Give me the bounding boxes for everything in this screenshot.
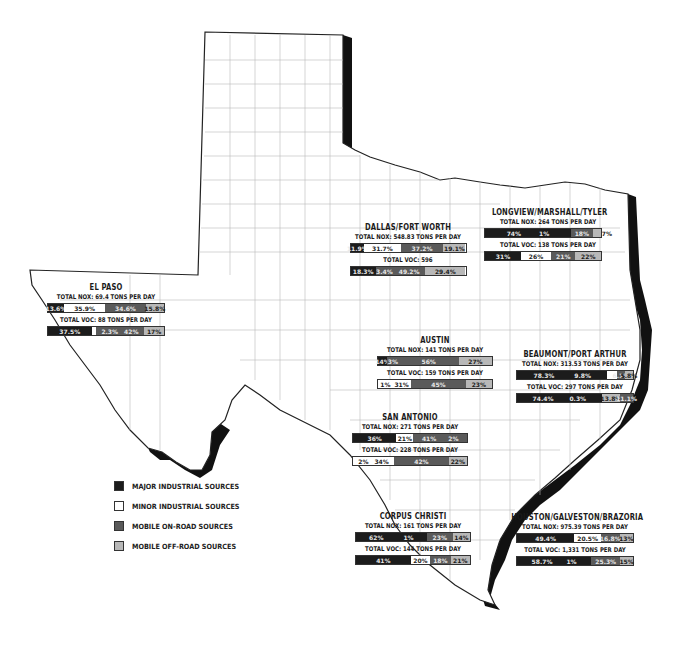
legend-item-offroad: MOBILE OFF-ROAD SOURCES <box>114 536 251 556</box>
nox-total: TOTAL NOX: 141 TONS PER DAY <box>380 346 491 355</box>
voc-offroad-segment: 22% <box>575 252 601 260</box>
mobile-on-road-swatch-icon <box>114 521 124 531</box>
legend-label: MOBILE ON-ROAD SOURCES <box>132 522 233 531</box>
nox-onroad-segment: 41%2% <box>413 434 467 442</box>
voc-major-segment: 31% <box>485 252 521 260</box>
voc-offroad-segment: 23% <box>466 380 492 388</box>
nox-total: TOTAL NOX: 313.53 TONS PER DAY <box>520 360 631 369</box>
major-industrial-swatch-icon <box>114 481 124 491</box>
minor-industrial-swatch-icon <box>114 501 124 511</box>
voc-bar: 18.3% 3.4% 49.2% 29.4% <box>350 266 467 276</box>
nox-minor-segment: 31.7% <box>364 244 400 252</box>
nox-bar: 11.9% 31.7% 37.2% 19.1% <box>350 243 467 253</box>
region-title: HOUSTON/GALVESTON/BRAZORIA <box>511 513 639 523</box>
region-title: CORPUS CHRISTI <box>358 512 469 522</box>
voc-minor-segment: 3.4% <box>376 267 393 275</box>
voc-minor-segment: 2%34% <box>353 457 394 465</box>
region-dallas-fort-worth: DALLAS/FORT WORTH TOTAL NOX: 548.83 TONS… <box>343 223 473 279</box>
voc-total: TOTAL VOC: 228 TONS PER DAY <box>355 446 466 455</box>
nox-onroad-segment: 18% <box>571 229 593 237</box>
nox-onroad-segment: 16.8% <box>601 534 620 542</box>
nox-offroad-segment: 7% <box>593 229 601 237</box>
voc-bar: 1%31% 45% 23% <box>377 379 493 389</box>
region-san-antonio: SAN ANTONIO TOTAL NOX: 271 TONS PER DAY … <box>345 413 475 469</box>
region-title: AUSTIN <box>380 336 491 346</box>
nox-onroad-segment: 34.6% <box>105 304 145 312</box>
nox-major-segment: 78.3%9.8% <box>517 371 607 379</box>
voc-total: TOTAL VOC: 1,331 TONS PER DAY <box>511 546 639 555</box>
nox-bar: 78.3%9.8% 6.1% 5.8% <box>516 370 634 380</box>
voc-onroad-segment: 2.3%42% <box>96 327 145 335</box>
voc-total: TOTAL VOC: 297 TONS PER DAY <box>520 383 631 392</box>
nox-offroad-segment: 27% <box>459 357 492 365</box>
voc-onroad-segment: 25.3% <box>591 557 620 565</box>
nox-major-segment: 13.6% <box>48 304 64 312</box>
voc-major-segment: 58.7%1% <box>517 557 591 565</box>
nox-offroad-segment: 15.8% <box>146 304 164 312</box>
nox-bar: 49.4% 20.5% 16.8% 13% <box>516 533 634 543</box>
nox-total: TOTAL NOX: 548.83 TONS PER DAY <box>353 233 464 242</box>
nox-bar: 14% 3% 56% 27% <box>377 356 493 366</box>
nox-offroad-segment: 14% <box>453 533 470 541</box>
voc-total: TOTAL VOC: 596 <box>353 256 464 265</box>
voc-bar: 2%34% 42% 22% <box>352 456 468 466</box>
nox-major-segment: 36% <box>353 434 396 442</box>
voc-offroad-segment: 29.4% <box>425 267 465 275</box>
legend: MAJOR INDUSTRIAL SOURCES MINOR INDUSTRIA… <box>114 476 251 556</box>
nox-total: TOTAL NOX: 69.4 TONS PER DAY <box>50 293 162 302</box>
region-beaumont-port-arthur: BEAUMONT/PORT ARTHUR TOTAL NOX: 313.53 T… <box>510 350 640 406</box>
nox-total: TOTAL NOX: 271 TONS PER DAY <box>355 423 466 432</box>
legend-item-major: MAJOR INDUSTRIAL SOURCES <box>114 476 251 496</box>
legend-item-minor: MINOR INDUSTRIAL SOURCES <box>114 496 251 516</box>
nox-bar: 13.6% 35.9% 34.6% 15.8% <box>47 303 165 313</box>
nox-major-segment: 74%1% <box>485 229 571 237</box>
region-austin: AUSTIN TOTAL NOX: 141 TONS PER DAY 14% 3… <box>370 336 500 392</box>
nox-bar: 62%1% 23% 14% <box>355 532 471 542</box>
region-houston-galveston-brazoria: HOUSTON/GALVESTON/BRAZORIA TOTAL NOX: 97… <box>500 513 650 569</box>
legend-item-onroad: MOBILE ON-ROAD SOURCES <box>114 516 251 536</box>
voc-offroad-segment: 22% <box>449 457 467 465</box>
nox-onroad-segment: 37.2% <box>401 244 444 252</box>
nox-total: TOTAL NOX: 975.39 TONS PER DAY <box>511 523 639 532</box>
nox-bar: 36% 21% 41%2% <box>352 433 468 443</box>
region-corpus-christi: CORPUS CHRISTI TOTAL NOX: 161 TONS PER D… <box>348 512 478 568</box>
voc-bar: 41% 20% 18% 21% <box>355 555 471 565</box>
nox-minor-segment: 20.5% <box>574 534 601 542</box>
voc-bar: 37.5% 2.3%42% 17% <box>47 326 165 336</box>
voc-onroad-segment: 18% <box>430 556 451 564</box>
nox-offroad-segment: 13% <box>620 534 633 542</box>
region-el-paso: EL PASO TOTAL NOX: 69.4 TONS PER DAY 13.… <box>40 283 172 339</box>
voc-onroad-segment: 42% <box>394 457 449 465</box>
nox-offroad-segment: 19.1% <box>443 244 465 252</box>
nox-major-segment: 14% <box>378 357 387 365</box>
nox-onroad-segment: 56% <box>399 357 459 365</box>
voc-total: TOTAL VOC: 138 TONS PER DAY <box>492 241 604 250</box>
nox-minor-segment: 3% <box>387 357 398 365</box>
nox-total: TOTAL NOX: 264 TONS PER DAY <box>492 218 604 227</box>
voc-offroad-segment: 15% <box>620 557 633 565</box>
nox-onroad-segment: 23% <box>427 533 453 541</box>
nox-minor-segment: 35.9% <box>64 304 106 312</box>
voc-total: TOTAL VOC: 88 TONS PER DAY <box>50 316 162 325</box>
voc-offroad-segment: 17% <box>144 327 164 335</box>
voc-bar: 74.4%0.3% 13.8% 11.1% <box>516 393 634 403</box>
voc-bar: 31% 26% 21% 22% <box>484 251 602 261</box>
nox-offroad-segment: 5.8% <box>625 371 633 379</box>
legend-label: MAJOR INDUSTRIAL SOURCES <box>132 482 239 491</box>
voc-onroad-segment: 45% <box>411 380 466 388</box>
voc-minor-segment: 1%31% <box>378 380 411 388</box>
voc-total: TOTAL VOC: 144 TONS PER DAY <box>358 545 469 554</box>
nox-bar: 74%1% 18% 7% <box>484 228 602 238</box>
region-title: SAN ANTONIO <box>355 413 466 423</box>
nox-major-segment: 49.4% <box>517 534 574 542</box>
voc-major-segment: 18.3% <box>351 267 376 275</box>
legend-label: MINOR INDUSTRIAL SOURCES <box>132 502 239 511</box>
region-title: BEAUMONT/PORT ARTHUR <box>520 350 631 360</box>
nox-total: TOTAL NOX: 161 TONS PER DAY <box>358 522 469 531</box>
nox-major-segment: 62%1% <box>356 533 427 541</box>
legend-label: MOBILE OFF-ROAD SOURCES <box>132 542 236 551</box>
voc-total: TOTAL VOC: 159 TONS PER DAY <box>380 369 491 378</box>
voc-onroad-segment: 49.2% <box>393 267 425 275</box>
voc-offroad-segment: 11.1% <box>620 394 633 402</box>
region-title: EL PASO <box>50 283 162 293</box>
